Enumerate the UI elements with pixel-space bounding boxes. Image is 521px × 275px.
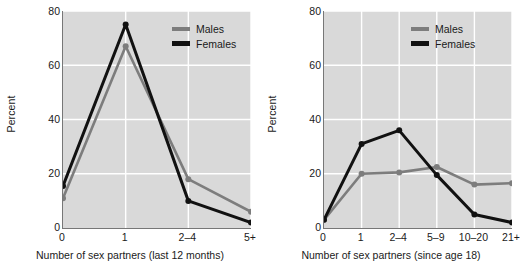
x-tick-label: 5+ <box>244 231 256 243</box>
x-tick-label: 5–9 <box>427 231 445 243</box>
y-tick-labels-right: 80 60 40 20 0 <box>281 0 321 240</box>
x-tick-label: 21+ <box>502 231 520 243</box>
data-point-males <box>434 164 440 170</box>
data-point-females <box>434 172 440 178</box>
legend-label-females: Females <box>196 37 236 51</box>
legend-swatch-females-icon <box>172 41 190 46</box>
y-axis-title-left: Percent <box>2 0 20 228</box>
x-tick-label: 0 <box>59 231 65 243</box>
data-point-females <box>123 22 129 28</box>
legend-item-females: Females <box>411 36 475 51</box>
x-axis-title-left: Number of sex partners (last 12 months) <box>0 249 260 261</box>
x-axis-title-right: Number of sex partners (since age 18) <box>261 249 521 261</box>
y-tick-label: 20 <box>36 168 60 178</box>
legend-item-males: Males <box>411 21 475 36</box>
y-tick-labels-left: 80 60 40 20 0 <box>20 0 60 240</box>
series-line-females <box>324 130 512 222</box>
data-point-females <box>359 141 365 147</box>
data-point-males <box>185 176 191 182</box>
x-tick-label: 2–4 <box>179 231 197 243</box>
y-tick-label: 40 <box>297 114 321 124</box>
chart-panel-last-12-months: Percent 80 60 40 20 0 012–45+ Number of … <box>0 0 260 275</box>
data-point-females <box>509 220 512 226</box>
y-tick-label: 0 <box>36 222 60 232</box>
legend-swatch-females-icon <box>411 41 429 46</box>
y-tick-label: 20 <box>297 168 321 178</box>
legend-label-males: Males <box>196 22 224 36</box>
y-tick-label: 60 <box>36 60 60 70</box>
legend-swatch-males-icon <box>411 27 429 31</box>
x-tick-label: 0 <box>320 231 326 243</box>
y-tick-label: 60 <box>297 60 321 70</box>
data-point-males <box>123 43 129 49</box>
y-axis-title-right: Percent <box>263 0 281 228</box>
y-tick-label: 80 <box>36 6 60 16</box>
legend-right: Males Females <box>411 21 475 51</box>
legend-item-males: Males <box>172 21 236 36</box>
data-point-males <box>471 182 477 188</box>
x-tick-labels-left: 012–45+ <box>62 231 250 245</box>
data-point-males <box>509 180 512 186</box>
data-point-females <box>471 211 477 217</box>
series-line-males <box>63 46 251 211</box>
data-point-males <box>63 195 66 201</box>
legend-left: Males Females <box>172 21 236 51</box>
y-tick-label: 80 <box>297 6 321 16</box>
data-point-males <box>359 171 365 177</box>
x-tick-label: 1 <box>122 231 128 243</box>
figure-two-line-charts: Percent 80 60 40 20 0 012–45+ Number of … <box>0 0 521 275</box>
data-point-females <box>185 198 191 204</box>
legend-label-females: Females <box>435 37 475 51</box>
chart-panel-since-age-18: Percent 80 60 40 20 0 012–45–910–2021+ N… <box>261 0 521 275</box>
x-tick-label: 1 <box>358 231 364 243</box>
y-tick-label: 0 <box>297 222 321 232</box>
data-point-females <box>396 127 402 133</box>
x-tick-labels-right: 012–45–910–2021+ <box>323 231 511 245</box>
x-tick-label: 10–20 <box>459 231 488 243</box>
data-point-males <box>396 169 402 175</box>
series-line-males <box>324 167 512 220</box>
series-line-females <box>63 25 251 223</box>
legend-swatch-males-icon <box>172 27 190 31</box>
y-tick-label: 40 <box>36 114 60 124</box>
data-point-females <box>63 183 66 189</box>
legend-label-males: Males <box>435 22 463 36</box>
legend-item-females: Females <box>172 36 236 51</box>
x-tick-label: 2–4 <box>389 231 407 243</box>
